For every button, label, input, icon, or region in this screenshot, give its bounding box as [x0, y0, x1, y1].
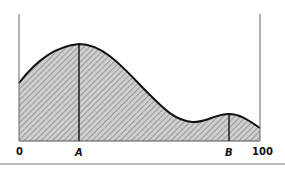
shaded-area [19, 44, 260, 141]
curve-plot [0, 0, 285, 171]
tick-label-0: 0 [16, 146, 23, 157]
density-diagram: 0 A B 100 [0, 0, 285, 171]
bottom-divider [0, 163, 285, 165]
tick-label-a: A [75, 147, 83, 158]
tick-label-b: B [225, 147, 233, 158]
tick-label-100: 100 [252, 146, 273, 157]
